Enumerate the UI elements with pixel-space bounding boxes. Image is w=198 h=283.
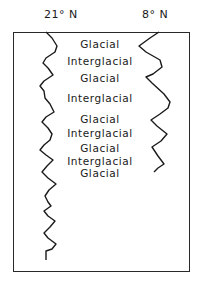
stage-label: Glacial [50, 143, 150, 154]
stage-label: Interglacial [50, 56, 150, 67]
stage-label: Glacial [50, 114, 150, 125]
stage-label: Glacial [50, 168, 150, 179]
stage-label: Glacial [50, 73, 150, 84]
stage-label: Interglacial [50, 93, 150, 104]
stage-label: Glacial [50, 39, 150, 50]
stage-label: Interglacial [50, 156, 150, 167]
stage-label: Interglacial [50, 128, 150, 139]
